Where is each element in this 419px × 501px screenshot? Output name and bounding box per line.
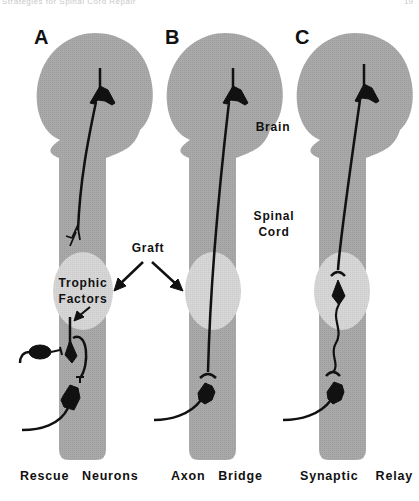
panel-letter-c: C [295, 26, 309, 49]
interneuron-a [20, 345, 62, 363]
graft-label: Graft [124, 240, 172, 256]
factors-label-line2: Factors [55, 291, 111, 307]
caption-axon-bridge: Axon Bridge [171, 469, 263, 483]
caption-synaptic-relay: Synaptic Relay [300, 469, 413, 483]
brain-label: Brain [253, 119, 293, 135]
cns-silhouette-b [167, 33, 283, 460]
cord-label-line2: Cord [250, 224, 298, 240]
diagram-canvas [0, 0, 419, 501]
trophic-label-line1: Trophic [55, 275, 111, 291]
panel-letter-b: B [165, 26, 179, 49]
panel-letter-a: A [34, 26, 48, 49]
caption-rescue-neurons: Rescue Neurons [20, 469, 138, 483]
cns-silhouette-c [297, 33, 413, 460]
spinal-label-line1: Spinal [250, 208, 298, 224]
